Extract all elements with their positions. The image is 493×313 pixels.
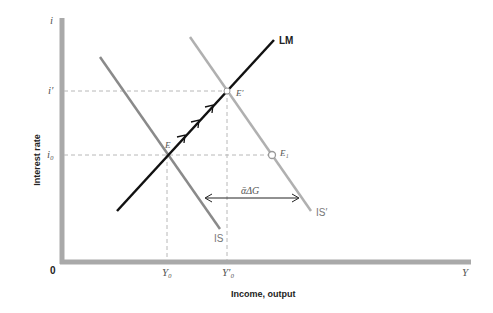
- point-e1: [269, 152, 276, 159]
- tick-y0-prime: Y′₀: [222, 266, 234, 278]
- tick-i-prime: i′: [48, 84, 53, 96]
- point-e-label: E: [165, 140, 171, 150]
- y-axis-label: Interest rate: [32, 115, 42, 205]
- lm-label: LM: [279, 35, 293, 46]
- is-lm-diagram: [0, 0, 493, 313]
- x-axis-label: Income, output: [231, 289, 296, 299]
- is-label: IS: [214, 233, 223, 244]
- point-e-prime-label: E′: [236, 88, 243, 98]
- guide-lines: [64, 91, 268, 260]
- is-curve: [100, 57, 220, 229]
- origin-label: 0: [50, 265, 56, 276]
- tick-y0: Y₀: [162, 266, 172, 278]
- point-e-prime: [224, 88, 230, 94]
- shift-annotation: ᾱΔG: [241, 185, 259, 196]
- y-axis-symbol: i: [50, 14, 53, 26]
- x-axis-symbol: Y: [462, 266, 468, 278]
- is-prime-label: IS′: [316, 207, 327, 218]
- point-e1-label: E₁: [280, 148, 289, 158]
- tick-i0: i₀: [47, 148, 54, 160]
